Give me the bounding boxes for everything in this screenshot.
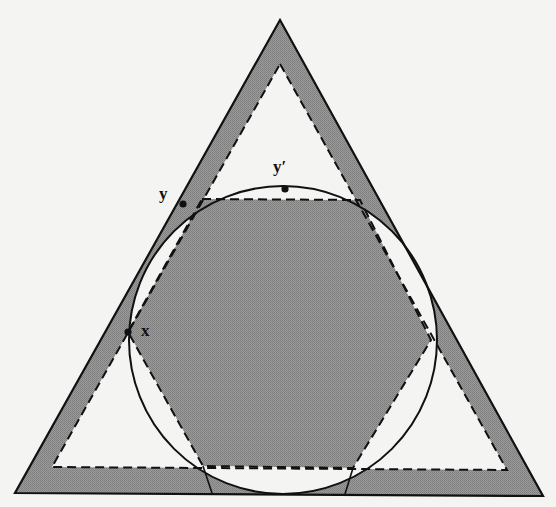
- geometry-figure: [0, 0, 556, 507]
- point-y-prime: [281, 185, 288, 192]
- point-x: [124, 328, 131, 335]
- shaded-regions: [15, 20, 543, 496]
- label-x: x: [141, 322, 150, 339]
- diagram-canvas: x y y′: [0, 0, 556, 507]
- label-y: y: [159, 185, 168, 202]
- point-y: [179, 200, 186, 207]
- label-y-prime: y′: [273, 158, 286, 175]
